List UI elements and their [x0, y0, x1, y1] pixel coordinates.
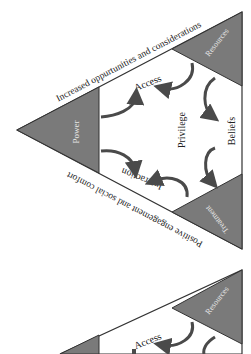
second-triangle-partial: Resources Access	[60, 270, 242, 354]
label-power: Power	[71, 121, 81, 144]
main-triangle: Power Resources Treatment Increased oppu…	[17, 12, 242, 249]
corner-power-2	[60, 335, 99, 354]
label-privilege: Privilege	[176, 111, 187, 148]
privilege-diagram: Power Resources Treatment Increased oppu…	[0, 0, 251, 354]
arrow-tip-icon	[132, 349, 136, 354]
label-beliefs: Beliefs	[226, 117, 237, 145]
